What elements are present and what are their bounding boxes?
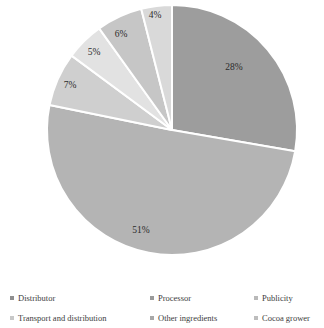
pie-chart-figure: 28%51%7%5%6%4% Distributor Processor Pub… [0,0,324,328]
pie-svg: 28%51%7%5%6%4% [0,0,324,272]
legend-item-label: Distributor [18,294,55,303]
pie-plot-area: 28%51%7%5%6%4% [0,0,324,272]
legend-swatch-icon [254,296,258,300]
pie-slice-value-label: 7% [64,80,77,90]
legend-item-label: Publicity [262,294,293,303]
pie-slice-value-label: 5% [88,47,101,57]
legend-item-processor[interactable]: Processor [150,288,254,308]
legend-item-label: Other ingredients [158,314,217,323]
pie-slice-value-label: 51% [132,225,150,235]
legend-item-label: Cocoa grower [262,314,310,323]
legend-swatch-icon [10,296,14,300]
legend-item-publicity[interactable]: Publicity [254,288,324,308]
legend-item-transport-and-distribution[interactable]: Transport and distribution [10,308,150,328]
pie-slice-value-label: 6% [115,29,128,39]
legend-item-other-ingredients[interactable]: Other ingredients [150,308,254,328]
legend-swatch-icon [10,316,14,320]
legend-swatch-icon [150,316,154,320]
legend-item-distributor[interactable]: Distributor [10,288,150,308]
legend-swatch-icon [150,296,154,300]
legend-swatch-icon [254,316,258,320]
pie-slice[interactable] [172,5,297,151]
legend-item-cocoa-grower[interactable]: Cocoa grower [254,308,324,328]
pie-slices-group [47,5,297,255]
legend-item-label: Transport and distribution [18,314,106,323]
legend-item-label: Processor [158,294,191,303]
chart-legend: Distributor Processor Publicity Transpor… [0,288,324,328]
pie-slice-value-label: 4% [149,10,162,20]
pie-slice-value-label: 28% [225,62,243,72]
